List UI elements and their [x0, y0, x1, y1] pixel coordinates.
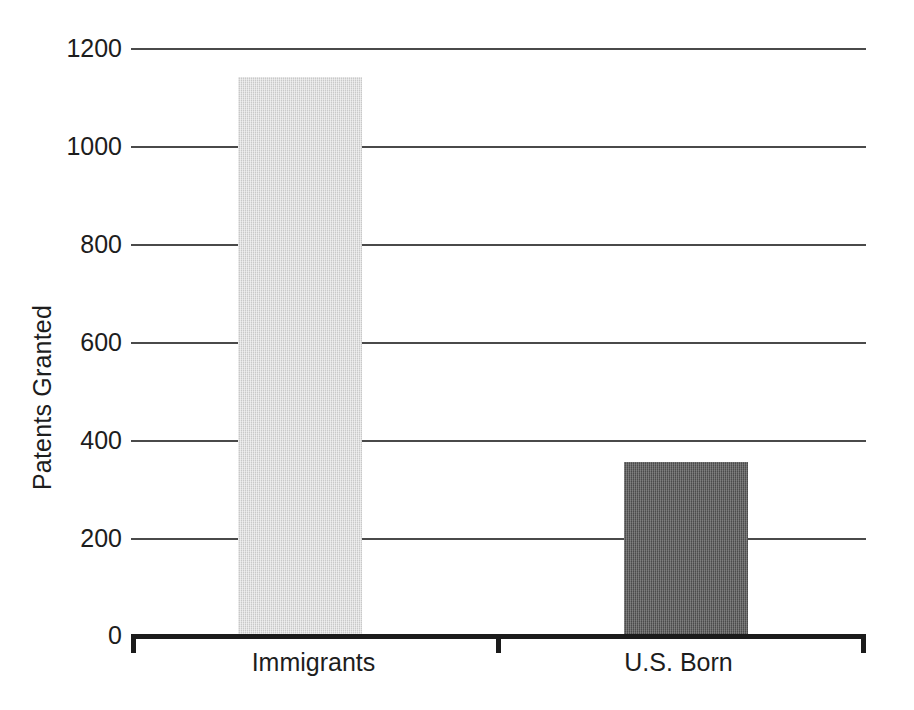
x-axis-label-immigrants: Immigrants — [131, 648, 496, 677]
y-tick-label-1200: 1200 — [2, 36, 122, 61]
gridline-1200 — [131, 48, 866, 50]
x-axis-label-us-born: U.S. Born — [496, 648, 861, 677]
bar-immigrants — [238, 77, 362, 636]
y-tick-label-800: 800 — [2, 232, 122, 257]
y-axis-tick-labels: 1200 1000 800 600 400 200 0 — [0, 0, 122, 710]
plot-area — [131, 48, 866, 636]
bar-chart: Patents Granted 1200 1000 800 600 400 20… — [0, 0, 914, 710]
y-tick-label-200: 200 — [2, 526, 122, 551]
bar-us-born — [624, 462, 748, 636]
y-tick-label-400: 400 — [2, 428, 122, 453]
y-tick-label-1000: 1000 — [2, 134, 122, 159]
y-tick-label-600: 600 — [2, 330, 122, 355]
x-axis-tick-right — [861, 634, 866, 653]
y-tick-label-0: 0 — [2, 623, 122, 648]
